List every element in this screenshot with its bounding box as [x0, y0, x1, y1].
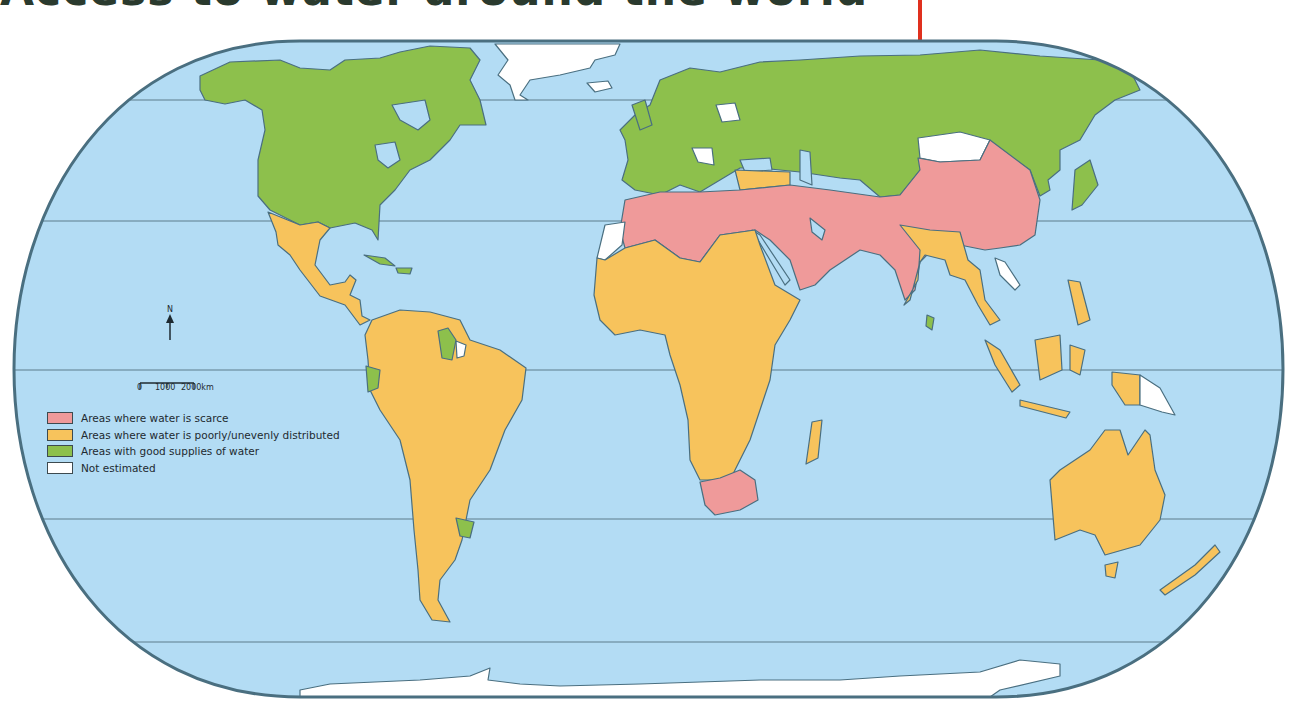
swatch-uneven: [47, 429, 73, 441]
scale-tick-2000: 2000km: [181, 383, 214, 392]
legend-item-good: Areas with good supplies of water: [47, 443, 340, 460]
swatch-scarce: [47, 412, 73, 424]
arrow-up-icon: [163, 314, 177, 340]
swatch-not-estimated: [47, 462, 73, 474]
north-arrow: N: [163, 305, 177, 344]
region-tasmania: [1105, 562, 1118, 578]
legend-label: Not estimated: [81, 462, 156, 474]
region-mongolia: [918, 132, 990, 162]
swatch-good: [47, 445, 73, 457]
legend-label: Areas where water is scarce: [81, 412, 229, 424]
map-legend: Areas where water is scarce Areas where …: [47, 410, 340, 476]
caspian-sea: [800, 150, 812, 185]
region-ecuador: [366, 366, 380, 392]
legend-label: Areas with good supplies of water: [81, 445, 259, 457]
legend-label: Areas where water is poorly/unevenly dis…: [81, 429, 340, 441]
legend-item-scarce: Areas where water is scarce: [47, 410, 340, 427]
scale-bar: 0 1000 2000km: [139, 375, 195, 394]
scale-tick-0: 0: [137, 383, 142, 392]
region-hispaniola: [396, 268, 412, 274]
north-label: N: [163, 305, 177, 314]
scale-tick-1000: 1000: [155, 383, 175, 392]
world-map: [0, 0, 1297, 713]
legend-item-not-estimated: Not estimated: [47, 460, 340, 477]
legend-item-uneven: Areas where water is poorly/unevenly dis…: [47, 427, 340, 444]
